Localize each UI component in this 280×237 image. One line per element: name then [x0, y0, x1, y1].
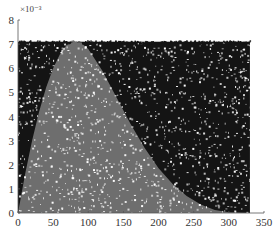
- y-tick-label: 0: [9, 207, 15, 219]
- y-tick-label: 2: [9, 159, 15, 171]
- x-tick-label: 150: [115, 216, 132, 228]
- x-tick-label: 300: [221, 216, 238, 228]
- scatter-points: [18, 40, 252, 214]
- y-tick-label: 6: [9, 62, 15, 74]
- y-tick-label: 7: [9, 38, 15, 50]
- y-tick-label: 4: [9, 111, 15, 123]
- x-tick-label: 0: [15, 216, 21, 228]
- scatter-chart: 050100150200250300350012345678 ×10⁻³: [0, 0, 280, 237]
- x-tick-label: 350: [256, 216, 273, 228]
- x-tick-label: 200: [150, 216, 167, 228]
- x-tick-label: 250: [185, 216, 202, 228]
- y-scale-label: ×10⁻³: [20, 4, 42, 14]
- x-tick-label: 100: [80, 216, 97, 228]
- y-tick-label: 8: [9, 14, 15, 26]
- y-tick-label: 1: [9, 183, 15, 195]
- y-tick-label: 3: [9, 135, 15, 147]
- x-tick-label: 50: [48, 216, 60, 228]
- y-tick-label: 5: [9, 86, 15, 98]
